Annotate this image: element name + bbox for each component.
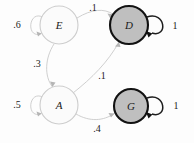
node-G[interactable]: G xyxy=(114,89,148,123)
edge-e-self-arrowhead xyxy=(37,32,42,37)
node-D[interactable]: D xyxy=(110,6,148,44)
edge-label-g-self: 1 xyxy=(174,100,179,111)
node-A-label: A xyxy=(55,99,63,111)
edge-d-self-arrowhead xyxy=(146,31,153,38)
node-E[interactable]: E xyxy=(40,6,78,44)
edge-label-a-to-g: .4 xyxy=(93,123,101,134)
edge-d-self-path xyxy=(147,16,163,33)
edge-e-to-a-path xyxy=(47,44,54,87)
edge-label-a-self: .5 xyxy=(13,99,21,110)
edge-label-e-self: .6 xyxy=(13,19,21,30)
edge-a-to-d-arrowhead xyxy=(115,42,121,47)
node-E-label: E xyxy=(55,19,63,31)
edge-a-to-d-path xyxy=(73,42,119,93)
edge-label-e-to-d: .1 xyxy=(89,2,97,13)
node-A[interactable]: A xyxy=(40,86,78,124)
edge-a-to-g-path xyxy=(76,114,115,120)
diagram-canvas: E D A G .6 .1 .3 .5 .1 .4 1 xyxy=(0,0,194,143)
node-D-label: D xyxy=(124,19,133,31)
node-G-label: G xyxy=(127,100,135,112)
edge-a-self-arrowhead xyxy=(37,112,42,117)
edge-g-self-path xyxy=(147,97,163,114)
state-diagram: E D A G .6 .1 .3 .5 .1 .4 1 xyxy=(0,0,194,143)
edge-e-to-a xyxy=(47,44,56,87)
edge-label-e-to-a: .3 xyxy=(33,58,41,69)
edge-a-to-d xyxy=(73,42,121,93)
edge-label-a-to-d: .1 xyxy=(98,70,106,81)
edge-g-self-arrowhead xyxy=(146,112,153,119)
edge-a-to-g xyxy=(76,113,115,120)
edge-label-d-self: 1 xyxy=(173,20,178,31)
